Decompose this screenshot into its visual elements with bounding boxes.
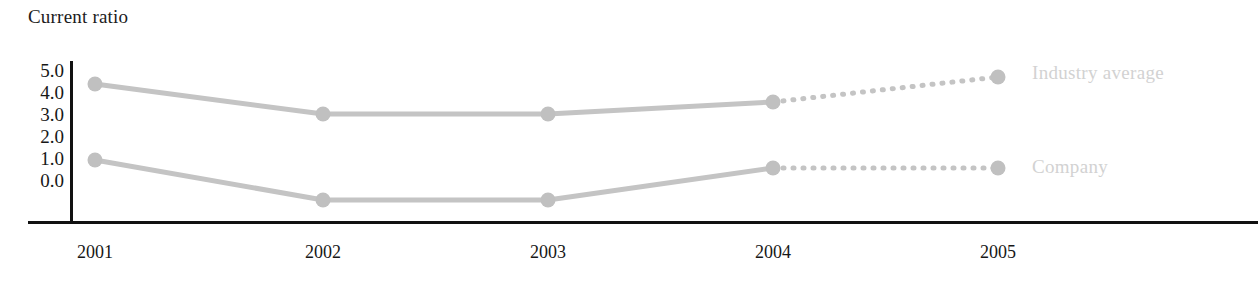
- x-axis-tick-label: 2002: [278, 243, 368, 262]
- series-company-line-actual: [95, 160, 773, 200]
- series-industry-average-line-actual: [95, 84, 773, 114]
- data-point: [316, 107, 331, 122]
- data-point: [991, 70, 1006, 85]
- series-label-company: Company: [1032, 157, 1108, 176]
- y-axis-tick-label: 5.0: [18, 61, 64, 80]
- series-industry-average-line-forecast: [773, 77, 998, 102]
- plot-area: [0, 0, 1260, 281]
- data-point: [88, 153, 103, 168]
- x-axis-tick-label: 2003: [503, 243, 593, 262]
- data-point: [991, 161, 1006, 176]
- data-point: [541, 193, 556, 208]
- data-point: [766, 95, 781, 110]
- y-axis-tick-label: 4.0: [18, 83, 64, 102]
- data-point: [766, 161, 781, 176]
- x-axis-tick-label: 2004: [728, 243, 818, 262]
- data-point: [88, 77, 103, 92]
- data-point: [541, 107, 556, 122]
- x-axis-tick-label: 2005: [953, 243, 1043, 262]
- x-axis-tick-label: 2001: [50, 243, 140, 262]
- current-ratio-chart: Current ratio 5.0 4.0 3.0 2.0 1.0 0.0 20…: [0, 0, 1260, 281]
- series-label-industry-average: Industry average: [1032, 63, 1164, 82]
- y-axis-tick-label: 3.0: [18, 105, 64, 124]
- y-axis-tick-label: 0.0: [18, 171, 64, 190]
- y-axis-tick-label: 1.0: [18, 149, 64, 168]
- data-point: [316, 193, 331, 208]
- y-axis-tick-label: 2.0: [18, 127, 64, 146]
